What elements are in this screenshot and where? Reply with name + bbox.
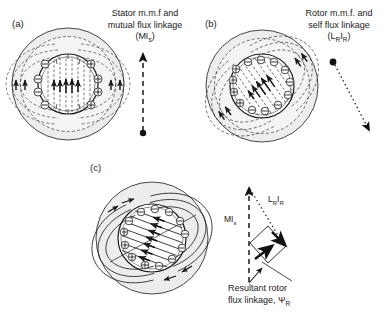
resultant-arrow-lower [255, 246, 272, 259]
stator-mmf-arrow [140, 54, 146, 136]
resultant-caption-line2: flux linkage, ΨR [228, 295, 290, 305]
rotor-mmf-arrow [330, 59, 369, 130]
panel-b-caption-line1: Rotor m.m.f. and [305, 8, 372, 18]
panel-a-caption-line1: Stator m.m.f and [112, 8, 179, 18]
panel-c-machine [80, 179, 224, 297]
panel-label-a: (a) [12, 18, 24, 29]
panel-label-c: (c) [90, 162, 101, 173]
panel-b-caption: Rotor m.m.f. and self flux linkage (LRIR… [293, 8, 385, 45]
diagram-svg [0, 0, 388, 312]
resultant-arrow-upper [272, 232, 285, 245]
resultant-caption-line1: Resultant rotor [228, 283, 287, 293]
resultant-flux-caption: Resultant rotor flux linkage, ΨR [228, 283, 290, 309]
panel-b-caption-line2: self flux linkage [308, 20, 370, 30]
mi-s-vector-label: MIs [224, 214, 236, 226]
panel-a-caption-line2: mutual flux linkage [108, 20, 183, 30]
panel-label-b: (b) [205, 18, 217, 29]
caption-leader-line [262, 262, 292, 281]
resultant-rotor-flux-vector [249, 268, 262, 283]
panel-a-caption: Stator m.m.f and mutual flux linkage (MI… [99, 8, 191, 45]
lr-ir-vector-label: LRIR [268, 194, 284, 206]
panel-a-quantity: (MIs) [135, 31, 154, 41]
panel-b-quantity: (LRIR) [328, 31, 351, 41]
figure-canvas: (a) Stator m.m.f and mutual flux linkage… [0, 0, 388, 312]
